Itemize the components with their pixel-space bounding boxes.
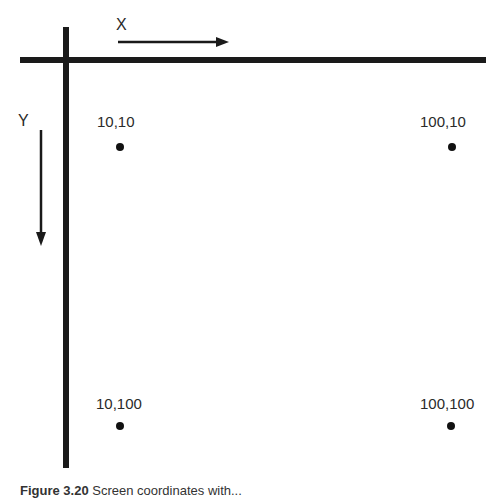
point-label-100-100: 100,100	[420, 396, 474, 411]
point-label-10-100: 10,100	[96, 396, 142, 411]
point-dot-10-10	[116, 143, 124, 151]
caption-text: Screen coordinates with...	[89, 483, 242, 498]
point-dot-100-10	[448, 143, 456, 151]
point-label-100-10: 100,10	[420, 114, 466, 129]
figure-caption: Figure 3.20 Screen coordinates with...	[20, 483, 242, 499]
point-dot-10-100	[116, 422, 124, 430]
caption-figure-number: Figure 3.20	[20, 483, 89, 498]
point-label-10-10: 10,10	[97, 114, 135, 129]
point-dot-100-100	[447, 422, 455, 430]
